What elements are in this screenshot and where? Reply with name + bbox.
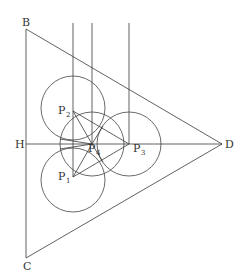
label-c: C [23,260,31,273]
label-d: D [225,138,234,151]
label-p1-sub: 1 [66,177,70,185]
label-p4-sub: 4 [96,149,101,157]
label-p2-sub: 2 [66,111,70,119]
label-p4: P [88,142,96,155]
label-p1: P [58,170,66,183]
segment-cd [26,144,222,258]
segment-bd [26,29,222,144]
label-p3-sub: 3 [141,149,145,157]
geometry-diagram: B C D H P 2 P 1 P 4 P 3 [0,0,244,280]
label-h: H [15,138,25,151]
label-p3: P [133,142,141,155]
label-p2: P [58,104,66,117]
label-b: B [22,16,30,29]
segment-p2-p4 [73,111,92,144]
